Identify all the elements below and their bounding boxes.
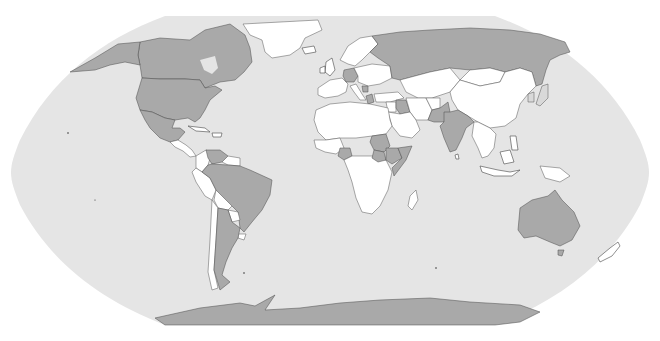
hawaii-islands	[67, 132, 69, 134]
falklands	[243, 272, 245, 274]
hispaniola	[212, 133, 222, 137]
country-korea	[528, 92, 534, 102]
world-map	[0, 0, 660, 341]
indian-ocean-island	[435, 267, 437, 269]
north-africa	[314, 102, 392, 140]
pacific-island	[94, 199, 95, 200]
country-serbia	[362, 86, 368, 92]
country-sri-lanka	[455, 154, 459, 159]
